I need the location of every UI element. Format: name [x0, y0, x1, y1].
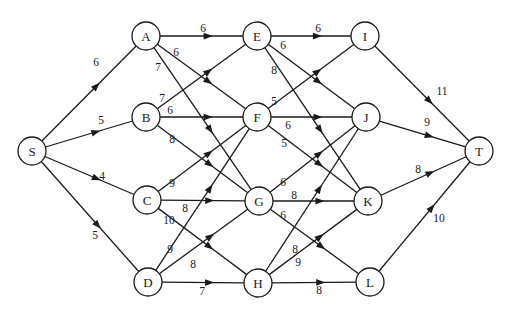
arrowhead-icon [204, 241, 213, 249]
arrowhead-icon [313, 76, 322, 84]
edge-weight-label: 5 [281, 137, 287, 149]
node-label: C [143, 193, 152, 208]
edge-weight-label: 7 [159, 92, 165, 104]
arrowhead-icon [314, 234, 323, 242]
edge-weight-label: 10 [163, 214, 175, 226]
edge-labels-layer: 65456677689810987668565686898119810 [92, 22, 448, 297]
edge-line [45, 156, 134, 194]
arrowhead-icon [315, 124, 323, 133]
edge-weight-label: 9 [169, 177, 175, 189]
edge-weight-label: 10 [433, 212, 445, 224]
edge-S-A [42, 46, 136, 141]
node-label: K [363, 194, 373, 209]
edge-weight-label: 4 [99, 170, 105, 182]
node-S: S [18, 137, 46, 165]
arrowhead-icon [424, 132, 434, 138]
edge-F-J [271, 114, 352, 121]
edge-weight-label: 6 [280, 176, 286, 188]
node-H: H [244, 269, 272, 297]
node-label: I [363, 29, 367, 44]
edge-S-D [41, 161, 138, 271]
arrowhead-icon [205, 197, 214, 204]
node-label: L [366, 275, 374, 290]
node-label: D [143, 275, 152, 290]
arrowhead-icon [312, 69, 321, 77]
node-F: F [243, 103, 271, 131]
node-J: J [352, 103, 380, 131]
edge-weight-label: 8 [271, 64, 277, 76]
edge-weight-label: 8 [169, 133, 175, 145]
edge-weight-label: 5 [271, 95, 277, 107]
edge-line [42, 46, 136, 141]
arrowhead-icon [205, 184, 213, 193]
arrowhead-icon [314, 159, 323, 167]
edge-K-T [381, 157, 466, 196]
arrowhead-icon [314, 151, 323, 159]
edge-line [154, 48, 251, 190]
node-label: G [254, 194, 263, 209]
edge-weight-label: 8 [182, 202, 188, 214]
edge-I-T [375, 46, 469, 141]
edge-E-K [265, 48, 360, 190]
edge-A-G [154, 48, 251, 190]
arrowhead-icon [205, 279, 214, 286]
edge-weight-label: 6 [200, 22, 206, 34]
node-label: F [253, 110, 260, 125]
arrowhead-icon [203, 76, 212, 84]
edge-weight-label: 9 [424, 116, 430, 128]
edge-line [375, 46, 469, 141]
arrowhead-icon [203, 150, 212, 158]
edge-weight-label: 8 [291, 189, 297, 201]
edge-weight-label: 5 [92, 229, 98, 241]
edge-line [379, 162, 470, 271]
node-label: T [475, 144, 483, 159]
node-label: A [141, 29, 151, 44]
arrowhead-icon [205, 124, 213, 133]
node-I: I [351, 22, 379, 50]
edge-line [161, 200, 245, 201]
arrowhead-icon [204, 114, 213, 121]
edge-weight-label: 6 [280, 39, 286, 51]
edge-weight-label: 8 [415, 163, 421, 175]
edge-weight-label: 6 [280, 209, 286, 221]
edge-H-J [266, 129, 359, 272]
arrowhead-icon [205, 234, 214, 242]
edge-line [272, 282, 356, 283]
edge-weight-label: 6 [173, 46, 179, 58]
edge-weight-label: 7 [199, 285, 205, 297]
edge-weight-label: 9 [295, 256, 301, 268]
node-G: G [245, 187, 273, 215]
node-label: S [28, 144, 35, 159]
arrowhead-icon [91, 130, 101, 136]
network-diagram: 65456677689810987668565686898119810 SABC… [0, 0, 512, 317]
edge-weight-label: 5 [98, 114, 104, 126]
nodes-layer: SABCDEFGHIJKLT [18, 22, 493, 297]
node-label: H [253, 276, 262, 291]
node-label: B [142, 110, 151, 125]
node-T: T [465, 137, 493, 165]
edges-layer [41, 33, 470, 286]
edge-line [266, 129, 359, 272]
edge-weight-label: 6 [315, 22, 321, 34]
arrowhead-icon [314, 185, 322, 194]
node-C: C [133, 186, 161, 214]
edge-weight-label: 6 [93, 56, 99, 68]
edge-weight-label: 8 [292, 243, 298, 255]
arrowhead-icon [203, 69, 212, 77]
edge-weight-label: 7 [155, 61, 161, 73]
edge-line [41, 161, 138, 271]
edge-weight-label: 9 [167, 243, 173, 255]
edge-weight-label: 8 [316, 284, 322, 296]
node-E: E [243, 22, 271, 50]
node-label: E [253, 29, 261, 44]
node-D: D [134, 268, 162, 296]
edge-weight-label: 6 [167, 104, 173, 116]
arrowhead-icon [204, 159, 213, 167]
edge-H-L [272, 279, 356, 286]
edge-weight-label: 11 [436, 85, 447, 97]
edge-line [381, 157, 466, 196]
edge-weight-label: 6 [285, 119, 291, 131]
arrowhead-icon [313, 114, 322, 121]
node-A: A [132, 22, 160, 50]
node-L: L [356, 268, 384, 296]
